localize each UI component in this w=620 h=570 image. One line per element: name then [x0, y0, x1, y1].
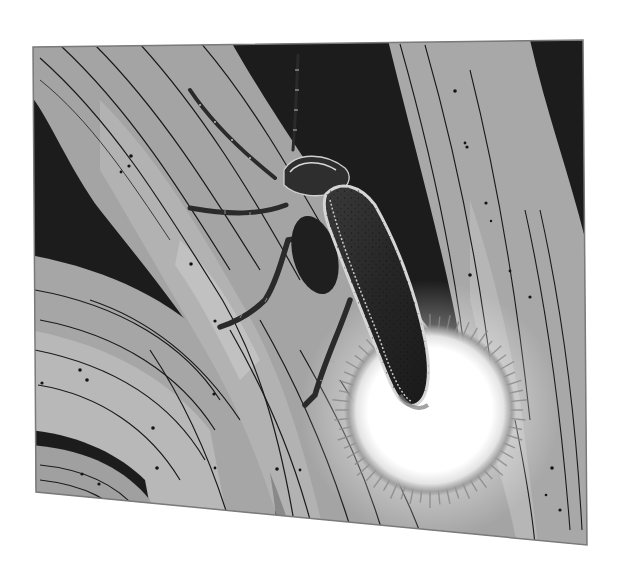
glow-core: [344, 324, 516, 496]
illustration-stage: Firefly on a blade of grass at night, ab…: [0, 0, 620, 570]
comic-panel: [0, 0, 620, 570]
firefly-illustration: [0, 0, 620, 570]
